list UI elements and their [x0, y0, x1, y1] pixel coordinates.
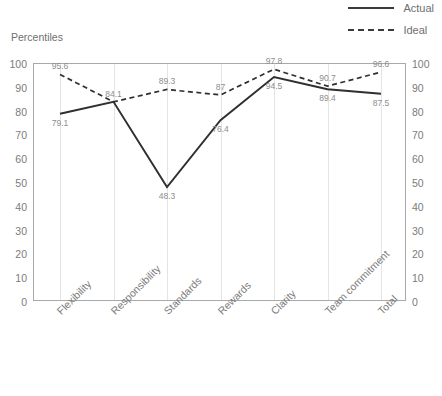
y-tick-label: 0 [405, 297, 418, 308]
point-label: 79.1 [52, 119, 69, 128]
point-label: 89.3 [159, 77, 176, 86]
y-tick-label: 70 [405, 130, 424, 141]
legend-item-ideal[interactable]: Ideal [348, 24, 427, 36]
y-tick-label: 60 [405, 154, 424, 165]
y-tick-label: 90 [405, 83, 424, 94]
y-tick-label: 90 [15, 83, 34, 94]
y-tick-label: 100 [405, 59, 430, 70]
point-label: 95.6 [52, 62, 69, 71]
y-tick-label: 40 [15, 202, 34, 213]
y-tick-label: 50 [15, 178, 34, 189]
legend-label-ideal: Ideal [403, 24, 427, 36]
point-label: 89.4 [319, 94, 336, 103]
y-tick-label: 30 [15, 226, 34, 237]
y-tick-label: 10 [405, 273, 424, 284]
point-label: 94.5 [266, 82, 283, 91]
point-label: 76.4 [212, 125, 229, 134]
y-tick-label: 100 [9, 59, 34, 70]
y-tick-label: 10 [15, 273, 34, 284]
y-tick-label: 20 [15, 249, 34, 260]
y-tick-label: 70 [15, 130, 34, 141]
y-tick-label: 40 [405, 202, 424, 213]
percentiles-line-chart: Actual Ideal Percentiles 010203040506070… [0, 0, 442, 396]
plot-area: 0102030405060708090100 01020304050607080… [33, 63, 406, 301]
point-label: 48.3 [159, 192, 176, 201]
y-tick-label: 60 [15, 154, 34, 165]
y-tick-label: 80 [405, 107, 424, 118]
y-tick-label: 80 [15, 107, 34, 118]
point-label: 97.8 [266, 57, 283, 66]
chart-legend: Actual Ideal [348, 2, 434, 36]
clipped-footer [0, 387, 442, 396]
y-axis-title: Percentiles [11, 31, 63, 43]
point-label: 87 [216, 83, 225, 92]
point-label: 84.1 [105, 90, 122, 99]
y-tick-label: 20 [405, 249, 424, 260]
y-tick-label: 0 [21, 297, 34, 308]
dashed-line-icon [348, 25, 394, 35]
point-label: 90.7 [319, 74, 336, 83]
solid-line-icon [348, 3, 394, 13]
legend-item-actual[interactable]: Actual [348, 2, 434, 14]
legend-label-actual: Actual [403, 2, 434, 14]
y-tick-label: 30 [405, 226, 424, 237]
series-lines [34, 64, 407, 302]
y-tick-label: 50 [405, 178, 424, 189]
point-label: 96.6 [373, 60, 390, 69]
point-label: 87.5 [373, 99, 390, 108]
